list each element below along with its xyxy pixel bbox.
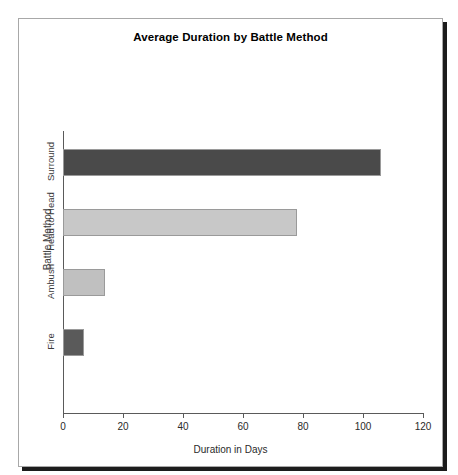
x-tick-label: 20 (103, 421, 143, 432)
x-tick (123, 413, 124, 418)
x-tick-label: 80 (283, 421, 323, 432)
bar-fill (63, 329, 84, 356)
top-edge-artifact (0, 0, 458, 8)
x-tick (243, 413, 244, 418)
bar-fill (63, 269, 105, 296)
x-tick-label: 40 (163, 421, 203, 432)
panel-shadow-right (443, 22, 447, 471)
chart-title: Average Duration by Battle Method (19, 31, 442, 43)
x-tick (363, 413, 364, 418)
panel-shadow-bottom (22, 467, 447, 471)
x-tick-label: 0 (43, 421, 83, 432)
x-tick (423, 413, 424, 418)
x-tick (183, 413, 184, 418)
x-axis-title: Duration in Days (19, 444, 442, 455)
x-tick (303, 413, 304, 418)
x-tick-label: 60 (223, 421, 263, 432)
x-tick-label: 120 (403, 421, 443, 432)
bar-fill (63, 209, 297, 236)
y-category-label: Fire (45, 296, 56, 386)
bar-fill (63, 149, 381, 176)
x-tick (63, 413, 64, 418)
x-tick-label: 100 (343, 421, 383, 432)
chart-panel: Average Duration by Battle Method Battle… (18, 18, 443, 467)
